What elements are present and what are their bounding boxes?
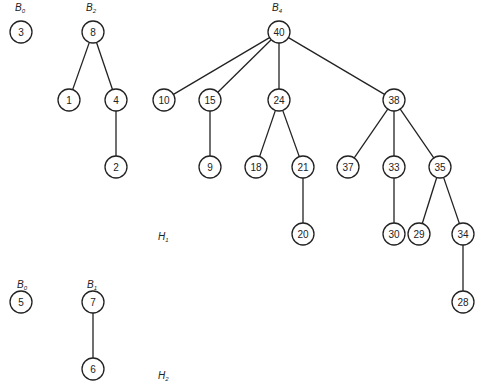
node-key: 38 — [388, 95, 400, 106]
node-15: 15 — [199, 89, 221, 111]
node-7: 7 — [82, 291, 104, 313]
node-34: 34 — [452, 223, 474, 245]
node-38: 38 — [383, 89, 405, 111]
node-20: 20 — [292, 223, 314, 245]
node-key: 28 — [457, 297, 469, 308]
edge-38-37 — [354, 109, 388, 158]
node-key: 40 — [273, 27, 285, 38]
edge-40-15 — [218, 40, 271, 93]
node-37: 37 — [337, 156, 359, 178]
edge-8-1 — [73, 42, 90, 89]
edge-8-4 — [97, 42, 113, 89]
node-key: 34 — [457, 229, 469, 240]
binomial-heap-diagram: 381424010152438918212037333530293428576 — [0, 0, 483, 392]
node-24: 24 — [268, 89, 290, 111]
node-30: 30 — [383, 223, 405, 245]
node-key: 15 — [204, 95, 216, 106]
node-key: 7 — [90, 297, 96, 308]
node-35: 35 — [429, 156, 451, 178]
node-18: 18 — [245, 156, 267, 178]
node-9: 9 — [199, 156, 221, 178]
node-key: 30 — [388, 229, 400, 240]
edge-35-34 — [444, 177, 460, 223]
node-6: 6 — [82, 358, 104, 380]
node-1: 1 — [58, 89, 80, 111]
node-8: 8 — [82, 21, 104, 43]
node-key: 29 — [413, 229, 425, 240]
edges-layer — [73, 38, 463, 358]
node-28: 28 — [452, 291, 474, 313]
edge-24-21 — [283, 110, 300, 156]
edge-35-29 — [422, 177, 436, 223]
node-key: 9 — [207, 162, 213, 173]
nodes-layer: 381424010152438918212037333530293428576 — [10, 21, 474, 380]
node-3: 3 — [10, 21, 32, 43]
node-21: 21 — [292, 156, 314, 178]
node-key: 37 — [342, 162, 354, 173]
node-40: 40 — [268, 21, 290, 43]
node-2: 2 — [105, 156, 127, 178]
node-5: 5 — [10, 291, 32, 313]
node-key: 35 — [434, 162, 446, 173]
node-key: 3 — [18, 27, 24, 38]
node-29: 29 — [408, 223, 430, 245]
node-33: 33 — [383, 156, 405, 178]
node-key: 20 — [297, 229, 309, 240]
edge-24-18 — [260, 110, 276, 156]
node-key: 33 — [388, 162, 400, 173]
node-key: 2 — [113, 162, 119, 173]
node-key: 24 — [273, 95, 285, 106]
node-key: 21 — [297, 162, 309, 173]
node-key: 8 — [90, 27, 96, 38]
edge-40-38 — [288, 38, 384, 95]
node-key: 1 — [66, 95, 72, 106]
edge-38-35 — [400, 109, 434, 158]
edge-40-10 — [173, 38, 269, 95]
node-key: 5 — [18, 297, 24, 308]
node-key: 4 — [113, 95, 119, 106]
node-10: 10 — [153, 89, 175, 111]
node-key: 10 — [158, 95, 170, 106]
node-key: 18 — [250, 162, 262, 173]
node-4: 4 — [105, 89, 127, 111]
node-key: 6 — [90, 364, 96, 375]
